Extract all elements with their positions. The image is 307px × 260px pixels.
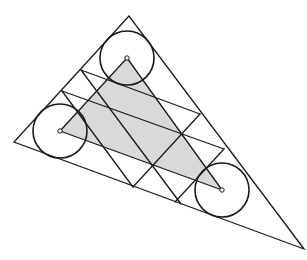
center-point-1 xyxy=(125,56,129,60)
geometry-diagram xyxy=(0,0,307,260)
center-point-3 xyxy=(220,188,224,192)
center-point-2 xyxy=(58,129,62,133)
diagram-svg xyxy=(0,0,307,260)
